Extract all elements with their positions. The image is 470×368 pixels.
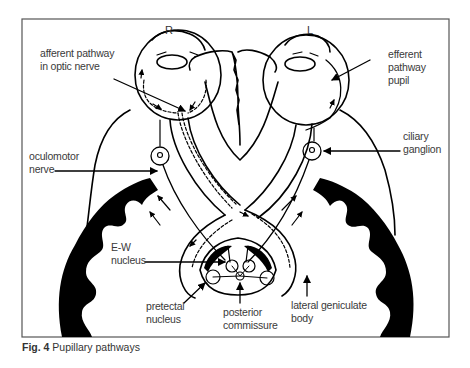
left-eyeball xyxy=(263,35,349,125)
label-ciliary-ganglion: ciliary ganglion xyxy=(403,130,441,156)
label-posterior-commissure: posterior commissure xyxy=(223,306,278,332)
label-efferent-pathway: efferent pathway pupil xyxy=(388,48,426,87)
label-afferent-pathway: afferent pathway in optic nerve xyxy=(40,47,114,73)
label-lateral-geniculate-body: lateral geniculate body xyxy=(291,299,367,325)
right-eyeball xyxy=(135,30,221,120)
label-ew-nucleus: E-W nucleus xyxy=(111,241,146,267)
caption-number: Fig. 4 xyxy=(22,341,49,353)
left-optic-nerve xyxy=(245,124,312,218)
right-pupil-lens xyxy=(157,55,187,69)
frontal-lobes xyxy=(195,50,270,145)
pupillary-pathways-figure: R L afferent pathway in optic nerve effe… xyxy=(0,0,470,368)
label-oculomotor-nerve: oculomotor nerve xyxy=(29,150,79,176)
caption-text: Pupillary pathways xyxy=(49,341,139,353)
right-eye-label: R xyxy=(165,24,173,36)
figure-caption: Fig. 4 Pupillary pathways xyxy=(22,341,140,353)
right-ciliary-ganglion xyxy=(151,147,169,165)
label-pretectal-nucleus: pretectal nucleus xyxy=(146,300,184,326)
right-optic-nerve xyxy=(170,118,240,215)
left-eye-label: L xyxy=(307,24,313,36)
left-pupil-lens xyxy=(285,57,315,71)
